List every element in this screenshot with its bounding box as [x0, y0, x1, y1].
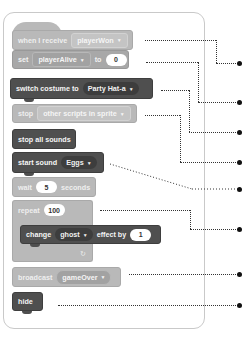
callout-dot — [237, 227, 242, 232]
callout-line — [129, 274, 238, 275]
callout-line — [190, 210, 191, 229]
callout-dot — [237, 272, 242, 277]
callout-dot — [237, 187, 242, 192]
callout-line — [190, 229, 238, 230]
diagonal-callout-line — [0, 0, 251, 339]
callout-line — [100, 210, 190, 211]
callout-dot — [237, 303, 242, 308]
callout-line — [58, 305, 238, 306]
